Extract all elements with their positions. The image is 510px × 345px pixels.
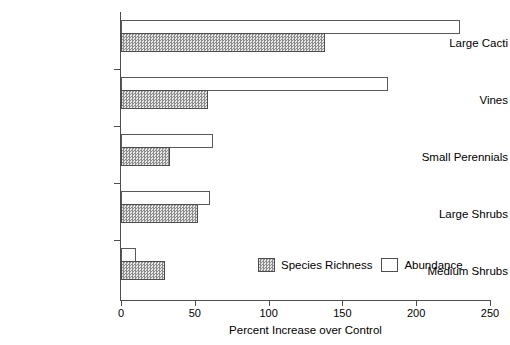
- bar-abundance-small-perennials: [121, 134, 213, 148]
- bar-species-richness-large-cacti: [121, 33, 325, 52]
- x-axis-tick-0: [121, 301, 122, 306]
- x-axis-tick-label-200: 200: [396, 307, 436, 320]
- bar-species-richness-medium-shrubs: [121, 261, 165, 280]
- y-axis-tick: [114, 183, 120, 184]
- x-axis-tick-label-250: 250: [470, 307, 510, 320]
- x-axis-tick-200: [416, 301, 417, 306]
- bar-abundance-large-shrubs: [121, 191, 210, 205]
- x-axis-tick-label-0: 0: [101, 307, 141, 320]
- x-axis-line: [120, 300, 491, 301]
- x-axis-title: Percent Increase over Control: [121, 323, 490, 337]
- x-axis-tick-label-150: 150: [322, 307, 362, 320]
- bar-species-richness-small-perennials: [121, 147, 170, 166]
- bar-abundance-vines: [121, 77, 388, 91]
- legend-swatch-icon-abundance: [381, 258, 398, 272]
- bar-species-richness-large-shrubs: [121, 204, 198, 223]
- x-axis-tick-250: [490, 301, 491, 306]
- y-axis-tick: [114, 126, 120, 127]
- legend-swatch-icon-species-richness: [258, 258, 275, 272]
- bar-species-richness-vines: [121, 90, 208, 109]
- legend-label-abundance: Abundance: [404, 258, 462, 272]
- y-axis-tick: [114, 240, 120, 241]
- x-axis-tick-label-50: 50: [175, 307, 215, 320]
- legend-label-species-richness: Species Richness: [281, 258, 372, 272]
- x-axis-tick-100: [269, 301, 270, 306]
- bar-abundance-large-cacti: [121, 20, 460, 34]
- legend-entry-species-richness: Species Richness: [258, 258, 372, 272]
- plot-area: [121, 12, 490, 300]
- y-axis-tick: [114, 69, 120, 70]
- legend-entry-abundance: Abundance: [381, 258, 462, 272]
- legend: Species Richness Abundance: [258, 258, 463, 272]
- x-axis-tick-label-100: 100: [249, 307, 289, 320]
- x-axis-tick-150: [342, 301, 343, 306]
- bar-abundance-medium-shrubs: [121, 248, 136, 262]
- x-axis-tick-50: [195, 301, 196, 306]
